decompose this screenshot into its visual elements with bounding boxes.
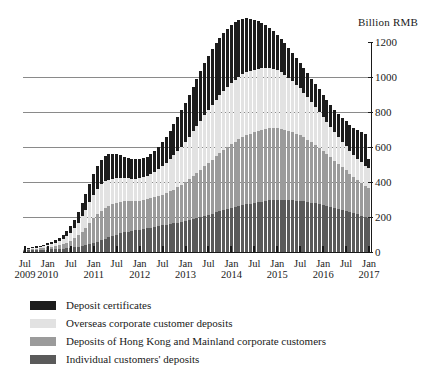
bar-segment <box>130 159 133 179</box>
x-tick-year: 2010 <box>37 269 58 280</box>
bar-2014-04 <box>241 19 244 252</box>
bar-segment <box>264 129 267 201</box>
bar-segment <box>199 170 202 217</box>
bar-segment <box>260 23 263 68</box>
bar-segment <box>329 105 332 127</box>
bar-2010-08 <box>73 220 76 252</box>
bar-segment <box>241 74 244 136</box>
bar-2016-01 <box>322 95 325 252</box>
bar-segment <box>88 223 91 244</box>
bar-segment <box>306 97 309 140</box>
bar-segment <box>146 199 149 228</box>
bar-2016-11 <box>360 132 363 252</box>
bar-segment <box>157 169 160 196</box>
bar-2015-12 <box>318 89 321 252</box>
bar-segment <box>302 68 305 93</box>
bar-segment <box>306 73 309 97</box>
bar-segment <box>337 164 340 209</box>
bar-2016-06 <box>341 118 344 252</box>
bar-segment <box>325 154 328 205</box>
bar-segment <box>142 177 145 200</box>
bar-segment <box>322 151 325 205</box>
x-tick-mark <box>230 246 232 253</box>
bar-segment <box>172 124 175 155</box>
bar-segment <box>123 232 126 252</box>
bar-2012-11 <box>176 117 179 252</box>
bar-segment <box>161 195 164 226</box>
bar-2014-01 <box>230 25 233 252</box>
bar-segment <box>146 228 149 252</box>
bar-2013-07 <box>207 56 210 252</box>
bar-segment <box>272 200 275 252</box>
bar-segment <box>142 158 145 177</box>
bar-2011-03 <box>100 160 103 252</box>
bar-segment <box>119 233 122 252</box>
bar-segment <box>272 31 275 69</box>
bar-2015-06 <box>295 58 298 252</box>
bar-2016-07 <box>345 121 348 252</box>
bar-segment <box>218 38 221 96</box>
bar-2012-06 <box>157 147 160 252</box>
axis-unit-label: Billion RMB <box>358 16 418 28</box>
bar-segment <box>176 117 179 151</box>
bar-segment <box>333 208 336 252</box>
bar-segment <box>180 222 183 252</box>
x-tick-label: Jan2012 <box>129 258 150 280</box>
bar-segment <box>211 214 214 253</box>
bar-segment <box>222 33 225 91</box>
bar-segment <box>222 91 225 150</box>
bar-segment <box>215 43 218 100</box>
bar-segment <box>88 244 91 252</box>
bar-2012-10 <box>172 124 175 252</box>
bar-2014-03 <box>237 20 240 252</box>
x-tick-label: Jan2013 <box>175 258 196 280</box>
bar-segment <box>356 214 359 252</box>
bar-segment <box>73 220 76 228</box>
bar-2016-04 <box>333 110 336 252</box>
legend-swatch-icon <box>30 319 56 328</box>
x-tick-month: Jul <box>294 258 306 269</box>
y-tick-label-400: 400 <box>375 177 392 188</box>
bar-2015-04 <box>287 48 290 252</box>
x-tick-year: 2009 <box>14 269 35 280</box>
bar-segment <box>100 160 103 185</box>
bar-segment <box>352 155 355 177</box>
x-tick-year: 2014 <box>221 269 242 280</box>
bar-segment <box>107 180 110 206</box>
bar-2015-01 <box>276 35 279 252</box>
x-tick-label: Jul <box>340 258 352 269</box>
bar-segment <box>119 178 122 202</box>
bar-segment <box>111 154 114 179</box>
bar-segment <box>215 212 218 252</box>
bar-segment <box>253 132 256 203</box>
bar-2014-02 <box>234 22 237 252</box>
bar-segment <box>245 135 248 204</box>
bar-2013-04 <box>195 79 198 252</box>
bar-segment <box>165 225 168 252</box>
bar-segment <box>211 49 214 105</box>
bar-segment <box>364 217 367 252</box>
bar-segment <box>165 193 168 225</box>
bar-segment <box>276 70 279 128</box>
bar-segment <box>299 201 302 252</box>
bar-segment <box>134 230 137 252</box>
bar-2016-05 <box>337 114 340 252</box>
bar-segment <box>241 137 244 205</box>
bar-segment <box>287 48 290 78</box>
x-tick-month: Jan <box>359 258 380 269</box>
bar-segment <box>249 134 252 204</box>
x-tick-mark <box>276 246 278 253</box>
x-tick-month: Jan <box>83 258 104 269</box>
bar-2016-03 <box>329 105 332 252</box>
bar-segment <box>111 236 114 252</box>
bar-segment <box>149 198 152 227</box>
y-tick-label-200: 200 <box>375 212 392 223</box>
bar-segment <box>345 170 348 210</box>
bar-segment <box>92 218 95 243</box>
bar-segment <box>230 144 233 208</box>
bar-segment <box>130 231 133 252</box>
bar-segment <box>169 131 172 160</box>
bar-segment <box>161 142 164 166</box>
bar-segment <box>169 159 172 191</box>
bar-segment <box>245 18 248 72</box>
